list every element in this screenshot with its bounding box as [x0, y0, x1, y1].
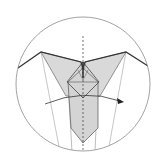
origami-diagram: [0, 0, 156, 161]
arrow-head-icon: [117, 98, 124, 104]
diagram-canvas: [0, 0, 156, 161]
